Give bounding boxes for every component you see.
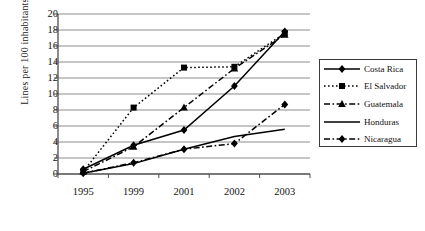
legend-item-guatemala[interactable]: Guatemala — [320, 95, 416, 113]
legend-label-guatemala: Guatemala — [361, 99, 403, 109]
legend-item-honduras[interactable]: Honduras — [320, 113, 416, 131]
gridlines — [58, 14, 310, 158]
legend-marker — [339, 83, 345, 89]
legend-key-costa-rica — [323, 62, 361, 76]
legend-marker — [339, 65, 346, 73]
legend-item-el-salvador[interactable]: El Salvador — [320, 78, 416, 96]
legend-key-guatemala — [323, 97, 361, 111]
legend-marker — [339, 135, 346, 143]
legend-label-honduras: Honduras — [361, 117, 399, 127]
legend-key-nicaragua — [323, 132, 361, 146]
legend-label-costa-rica: Costa Rica — [361, 64, 403, 74]
legend-label-nicaragua: Nicaragua — [361, 134, 401, 144]
series-layer — [79, 28, 288, 178]
series-nicaragua — [80, 100, 288, 177]
legend-label-el-salvador: El Salvador — [361, 81, 406, 91]
axis-lines — [54, 14, 310, 178]
data-point — [181, 145, 188, 153]
line-chart-figure: Lines per 100 inhabitants 02468101214161… — [0, 0, 425, 231]
data-point — [231, 140, 238, 148]
data-point — [131, 105, 137, 111]
legend: Costa Rica El Salvador Guatemala Hondura… — [319, 59, 417, 147]
data-point — [180, 104, 188, 111]
legend-key-el-salvador — [323, 79, 361, 93]
legend-item-costa-rica[interactable]: Costa Rica — [320, 60, 416, 78]
legend-item-nicaragua[interactable]: Nicaragua — [320, 130, 416, 148]
data-point — [130, 159, 137, 167]
legend-key-honduras — [323, 115, 361, 129]
data-point — [181, 65, 187, 71]
series-line — [83, 104, 285, 173]
